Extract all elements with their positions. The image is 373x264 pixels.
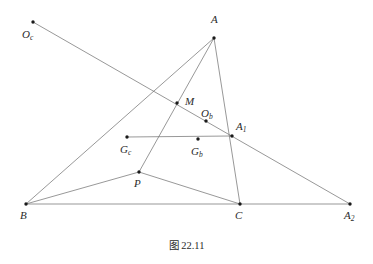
point-ob bbox=[204, 119, 207, 122]
label-gb-subscript: b bbox=[199, 150, 203, 159]
label-p: P bbox=[134, 178, 141, 189]
point-a2 bbox=[348, 202, 351, 205]
label-c-base: C bbox=[235, 209, 242, 221]
label-a: A bbox=[211, 14, 218, 25]
label-a2: A2 bbox=[344, 210, 354, 221]
seg-P-C bbox=[139, 172, 240, 204]
label-gb: Gb bbox=[191, 146, 203, 157]
label-oc-base: O bbox=[22, 28, 30, 40]
seg-B-P bbox=[26, 172, 139, 204]
label-gb-base: G bbox=[191, 145, 199, 157]
seg-Gc-A1 bbox=[127, 136, 232, 137]
label-oc: Oc bbox=[22, 29, 33, 40]
point-gc bbox=[125, 135, 128, 138]
point-a bbox=[212, 36, 215, 39]
label-b-base: B bbox=[20, 209, 27, 221]
seg-B-A bbox=[26, 38, 214, 204]
points-group bbox=[24, 20, 351, 205]
label-a1-subscript: 1 bbox=[243, 125, 247, 134]
point-oc bbox=[31, 20, 34, 23]
geometry-figure: OcAMObA1GcGbPBCA2 图 22.11 bbox=[0, 0, 373, 264]
point-m bbox=[175, 101, 178, 104]
label-b: B bbox=[20, 210, 27, 221]
label-a2-subscript: 2 bbox=[351, 214, 355, 223]
label-m: M bbox=[185, 96, 194, 107]
label-gc-base: G bbox=[120, 143, 128, 155]
figure-caption: 图 22.11 bbox=[0, 237, 373, 252]
label-p-base: P bbox=[134, 177, 141, 189]
seg-Oc-A2 bbox=[33, 22, 350, 204]
point-p bbox=[137, 170, 140, 173]
point-a1 bbox=[230, 134, 233, 137]
point-c bbox=[238, 202, 241, 205]
point-b bbox=[24, 202, 27, 205]
label-gc-subscript: c bbox=[128, 148, 131, 157]
geometry-canvas bbox=[0, 0, 373, 264]
label-a1-base: A bbox=[236, 120, 243, 132]
segments-group bbox=[26, 22, 350, 204]
label-gc: Gc bbox=[120, 144, 131, 155]
label-a-base: A bbox=[211, 13, 218, 25]
label-m-base: M bbox=[185, 95, 194, 107]
label-ob: Ob bbox=[201, 108, 213, 119]
label-a1: A1 bbox=[236, 121, 246, 132]
label-c: C bbox=[235, 210, 242, 221]
point-gb bbox=[196, 137, 199, 140]
label-ob-base: O bbox=[201, 107, 209, 119]
label-a2-base: A bbox=[344, 209, 351, 221]
label-oc-subscript: c bbox=[30, 33, 33, 42]
label-ob-subscript: b bbox=[209, 112, 213, 121]
